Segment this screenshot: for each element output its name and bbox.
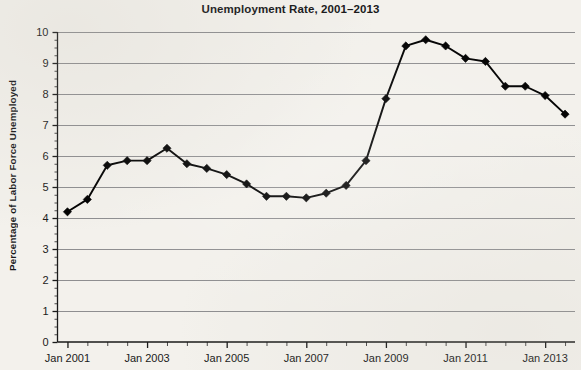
x-tick-label-5: Jan 2011 (443, 352, 487, 364)
y-tick-label-6: 6 (42, 150, 48, 162)
data-marker (203, 164, 211, 172)
data-marker (123, 157, 131, 165)
data-marker (382, 95, 390, 103)
y-tick-label-5: 5 (42, 181, 48, 193)
x-axis-labels: Jan 2001Jan 2003Jan 2005Jan 2007Jan 2009… (45, 352, 568, 364)
y-axis-ticks (53, 33, 58, 343)
y-axis-labels: 012345678910 (36, 26, 48, 348)
y-tick-label-0: 0 (42, 336, 48, 348)
data-marker (322, 189, 330, 197)
y-tick-label-7: 7 (42, 119, 48, 131)
y-tick-label-3: 3 (42, 243, 48, 255)
x-axis-ticks (68, 342, 566, 348)
data-marker (521, 82, 529, 90)
data-marker (402, 42, 410, 50)
x-tick-label-6: Jan 2013 (523, 352, 568, 364)
y-tick-label-9: 9 (42, 57, 48, 69)
y-tick-label-1: 1 (42, 305, 48, 317)
data-marker (282, 192, 290, 200)
y-tick-label-10: 10 (36, 26, 48, 38)
x-tick-label-4: Jan 2009 (363, 352, 408, 364)
x-tick-label-2: Jan 2005 (204, 352, 249, 364)
x-tick-label-1: Jan 2003 (124, 352, 169, 364)
data-marker (103, 161, 111, 169)
data-marker (302, 194, 310, 202)
gridlines (58, 33, 576, 312)
y-tick-label-4: 4 (42, 212, 48, 224)
y-tick-label-2: 2 (42, 274, 48, 286)
chart-container: Unemployment Rate, 2001–2013 Percentage … (0, 0, 581, 370)
x-tick-label-0: Jan 2001 (45, 352, 90, 364)
plot-area: 012345678910 Jan 2001Jan 2003Jan 2005Jan… (0, 0, 581, 370)
x-tick-label-3: Jan 2007 (284, 352, 329, 364)
data-marker (422, 36, 430, 44)
y-tick-label-8: 8 (42, 88, 48, 100)
data-marker (223, 171, 231, 179)
